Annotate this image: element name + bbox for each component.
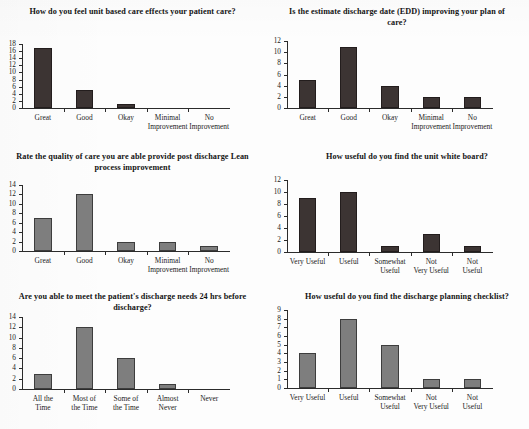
y-axis-tick [19, 327, 22, 328]
y-axis-tick [284, 362, 287, 363]
y-axis-tick [19, 223, 22, 224]
y-axis-tick [19, 368, 22, 369]
x-axis-tick-label: Not Useful [442, 258, 503, 275]
y-axis-tick-label: 8 [277, 315, 281, 322]
y-axis-tick [19, 58, 22, 59]
plot-area: 0123456789Very UsefulUsefulSomewhat Usef… [287, 310, 493, 388]
y-axis-tick-label: 10 [9, 69, 16, 76]
x-axis-tick-label: No Improvement [442, 114, 503, 131]
x-axis-tick [188, 390, 189, 393]
bar [381, 345, 398, 388]
y-axis-tick-label: 8 [277, 60, 281, 67]
y-axis-tick-label: 0 [12, 385, 16, 392]
y-axis-tick-label: 2 [12, 238, 16, 245]
y-axis-tick [284, 353, 287, 354]
y-axis-tick-label: 14 [9, 313, 16, 320]
y-axis-tick [19, 251, 22, 252]
y-axis-tick-label: 14 [9, 181, 16, 188]
bar [340, 192, 357, 252]
bar [76, 90, 93, 108]
y-axis-tick-label: 10 [9, 334, 16, 341]
y-axis-tick [284, 216, 287, 217]
chart-title: Is the estimate discharge date (EDD) imp… [265, 7, 529, 28]
chart-title: Are you able to meet the patient's disch… [0, 292, 265, 313]
y-axis-tick [284, 327, 287, 328]
x-axis-tick [369, 389, 370, 392]
y-axis-tick-label: 0 [277, 104, 281, 111]
bar [340, 319, 357, 388]
x-axis-line [287, 388, 493, 389]
y-axis-tick-label: 12 [274, 176, 281, 183]
bar [34, 374, 51, 389]
y-axis-tick-label: 4 [12, 90, 16, 97]
chart-title: How do you feel unit based care effects … [0, 7, 265, 18]
x-axis-line [22, 251, 230, 252]
x-axis-tick [188, 252, 189, 255]
y-axis-tick [19, 108, 22, 109]
y-axis-tick [19, 80, 22, 81]
x-axis-line [287, 108, 493, 109]
y-axis-tick-label: 0 [277, 248, 281, 255]
y-axis-tick [19, 379, 22, 380]
x-axis-line [22, 108, 230, 109]
y-axis-tick [19, 204, 22, 205]
y-axis-line [287, 310, 288, 388]
y-axis-tick-label: 6 [12, 83, 16, 90]
y-axis-tick [19, 44, 22, 45]
bar [159, 242, 176, 251]
y-axis-tick-label: 10 [274, 188, 281, 195]
x-axis-tick [147, 252, 148, 255]
y-axis-tick [284, 192, 287, 193]
x-axis-tick [105, 252, 106, 255]
y-axis-tick-label: 4 [277, 224, 281, 231]
plot-area: 02468101214All the TimeMost of the TimeS… [22, 317, 230, 389]
y-axis-tick [19, 232, 22, 233]
bar [34, 218, 51, 251]
y-axis-tick [284, 388, 287, 389]
chart-panel-quality-of-care-lean: Rate the quality of care you are able pr… [0, 145, 265, 285]
plot-area: 024681012141618GreatGoodOkayMinimal Impr… [22, 44, 230, 108]
y-axis-tick-label: 6 [277, 212, 281, 219]
x-axis-tick-label: Not Useful [442, 394, 503, 411]
bar [381, 86, 398, 108]
chart-title: How useful do you find the unit white bo… [265, 152, 529, 163]
bar [423, 97, 440, 108]
chart-panel-unit-based-care: How do you feel unit based care effects … [0, 0, 265, 145]
y-axis-tick [19, 72, 22, 73]
bar [299, 353, 316, 388]
x-axis-tick [452, 109, 453, 112]
y-axis-tick [284, 86, 287, 87]
bar [299, 198, 316, 252]
x-axis-tick [147, 109, 148, 112]
bar [464, 246, 481, 252]
x-axis-line [287, 252, 493, 253]
y-axis-tick [19, 213, 22, 214]
y-axis-line [287, 41, 288, 108]
y-axis-tick [19, 338, 22, 339]
y-axis-tick [284, 310, 287, 311]
y-axis-tick [284, 319, 287, 320]
chart-title: How useful do you find the discharge pla… [265, 292, 529, 303]
y-axis-tick [284, 252, 287, 253]
chart-panel-discharge-planning-checklist: How useful do you find the discharge pla… [265, 285, 529, 429]
x-axis-tick-label: No Improvement [178, 114, 240, 131]
chart-panel-unit-white-board: How useful do you find the unit white bo… [265, 145, 529, 285]
y-axis-tick-label: 4 [12, 365, 16, 372]
bar [423, 234, 440, 252]
y-axis-tick-label: 10 [9, 200, 16, 207]
x-axis-tick [105, 109, 106, 112]
x-axis-tick [147, 390, 148, 393]
y-axis-tick-label: 5 [277, 341, 281, 348]
bar [117, 104, 134, 108]
y-axis-tick-label: 8 [12, 344, 16, 351]
y-axis-tick-label: 0 [12, 104, 16, 111]
y-axis-line [287, 180, 288, 252]
bar [76, 194, 93, 251]
y-axis-tick [284, 41, 287, 42]
x-axis-tick [64, 252, 65, 255]
y-axis-tick-label: 8 [12, 76, 16, 83]
plot-area: 024681012Very UsefulUsefulSomewhat Usefu… [287, 180, 493, 252]
y-axis-tick [19, 51, 22, 52]
y-axis-tick [19, 194, 22, 195]
chart-panel-discharge-needs-24hrs: Are you able to meet the patient's disch… [0, 285, 265, 429]
